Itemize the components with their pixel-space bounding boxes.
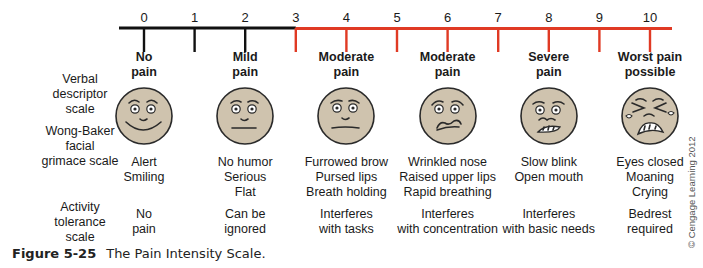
verbal-descriptor-line: Severe bbox=[494, 50, 604, 65]
scale-number: 4 bbox=[331, 10, 361, 25]
verbal-descriptor: Severepain bbox=[494, 50, 604, 80]
scale-number: 6 bbox=[433, 10, 463, 25]
verbal-descriptor: Worst painpossible bbox=[595, 50, 703, 80]
verbal-descriptor-line: pain bbox=[494, 65, 604, 80]
scale-number: 10 bbox=[635, 10, 665, 25]
distressed-face-icon bbox=[519, 86, 579, 146]
face-descriptor-line: Rapid breathing bbox=[383, 185, 513, 200]
verbal-descriptor-line: Moderate bbox=[291, 50, 401, 65]
verbal-descriptor: Nopain bbox=[89, 50, 199, 80]
figure-caption: Figure 5-25The Pain Intensity Scale. bbox=[12, 246, 266, 261]
scale-number: 9 bbox=[584, 10, 614, 25]
smiling-face-icon bbox=[114, 86, 174, 146]
copyright-notice: © Cengage Learning 2012 bbox=[686, 136, 697, 248]
verbal-descriptor-line: No bbox=[89, 50, 199, 65]
verbal-descriptor: Mildpain bbox=[190, 50, 300, 80]
verbal-descriptor-line: pain bbox=[393, 65, 503, 80]
scale-number: 3 bbox=[281, 10, 311, 25]
scale-number: 7 bbox=[483, 10, 513, 25]
verbal-descriptor-line: possible bbox=[595, 65, 703, 80]
grimacing-face-icon bbox=[418, 86, 478, 146]
verbal-descriptor-line: Moderate bbox=[393, 50, 503, 65]
verbal-descriptor: Moderatepain bbox=[393, 50, 503, 80]
verbal-descriptor: Moderatepain bbox=[291, 50, 401, 80]
verbal-descriptor-line: pain bbox=[291, 65, 401, 80]
figure-caption-text: The Pain Intensity Scale. bbox=[106, 246, 265, 261]
verbal-descriptor-line: pain bbox=[190, 65, 300, 80]
scale-number: 0 bbox=[129, 10, 159, 25]
scale-number: 2 bbox=[230, 10, 260, 25]
frowning-face-icon bbox=[316, 86, 376, 146]
scale-number: 5 bbox=[382, 10, 412, 25]
neutral-face-icon bbox=[215, 86, 275, 146]
verbal-descriptor-line: pain bbox=[89, 65, 199, 80]
verbal-descriptor-line: Mild bbox=[190, 50, 300, 65]
figure-label: Figure 5-25 bbox=[12, 246, 96, 261]
verbal-descriptor-line: Worst pain bbox=[595, 50, 703, 65]
scale-number: 1 bbox=[180, 10, 210, 25]
crying-face-icon bbox=[620, 86, 680, 146]
scale-number: 8 bbox=[534, 10, 564, 25]
